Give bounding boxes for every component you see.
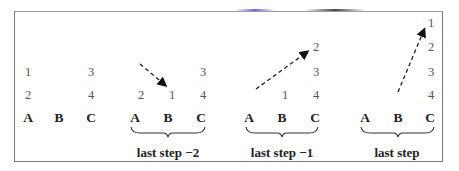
- diagram-graphics: [0, 0, 459, 171]
- move-arrow-icon: [256, 52, 307, 89]
- move-arrow-icon: [398, 30, 424, 92]
- move-arrow-icon: [140, 64, 165, 85]
- brace-icon: [361, 127, 434, 137]
- brace-icon: [131, 127, 205, 137]
- brace-icon: [246, 127, 318, 137]
